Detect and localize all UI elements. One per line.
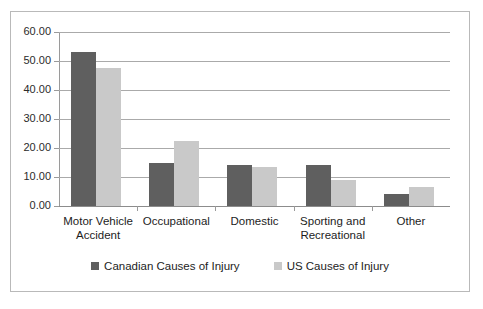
y-axis-tick <box>54 90 59 91</box>
chart-legend: Canadian Causes of InjuryUS Causes of In… <box>11 260 469 272</box>
legend-swatch-icon <box>91 262 99 270</box>
category-label-line: Domestic <box>215 214 293 228</box>
category-label-line: Occupational <box>137 214 215 228</box>
x-axis-category-label: Motor VehicleAccident <box>59 214 137 242</box>
y-axis-tick-label: 50.00 <box>23 55 51 66</box>
y-axis-tick-label: 10.00 <box>23 171 51 182</box>
y-axis-tick <box>54 148 59 149</box>
y-axis-tick <box>54 32 59 33</box>
bar[interactable] <box>384 194 409 206</box>
x-axis-tick <box>215 206 216 211</box>
y-axis-tick <box>54 177 59 178</box>
category-label-line: Accident <box>59 228 137 242</box>
x-axis-category-label: Sporting andRecreational <box>294 214 372 242</box>
bar[interactable] <box>331 180 356 206</box>
category-label-line: Other <box>372 214 450 228</box>
x-axis-category-label: Domestic <box>215 214 293 228</box>
y-axis-tick-label: 60.00 <box>23 26 51 37</box>
category-label-line: Recreational <box>294 228 372 242</box>
bar[interactable] <box>71 52 96 206</box>
chart-container: 60.0050.0040.0030.0020.0010.000.00 Motor… <box>10 11 470 292</box>
y-axis-tick <box>54 119 59 120</box>
legend-label: Canadian Causes of Injury <box>104 260 240 272</box>
bar[interactable] <box>149 163 174 207</box>
x-axis-category-label: Occupational <box>137 214 215 228</box>
bar-group <box>294 32 372 206</box>
y-axis-tick-label: 40.00 <box>23 84 51 95</box>
bar[interactable] <box>409 187 434 206</box>
bar[interactable] <box>252 167 277 206</box>
legend-swatch-icon <box>274 262 282 270</box>
x-axis-tick <box>137 206 138 211</box>
bar[interactable] <box>227 165 252 206</box>
y-axis-tick <box>54 206 59 207</box>
bar-group <box>372 32 450 206</box>
y-axis-labels: 60.0050.0040.0030.0020.0010.000.00 <box>11 12 51 212</box>
category-label-line: Sporting and <box>294 214 372 228</box>
plot-wrapper: 60.0050.0040.0030.0020.0010.000.00 Motor… <box>11 12 469 291</box>
bar-group <box>215 32 293 206</box>
legend-item[interactable]: US Causes of Injury <box>274 260 389 272</box>
bars-layer <box>59 32 450 206</box>
x-axis-category-labels: Motor VehicleAccidentOccupationalDomesti… <box>59 214 450 254</box>
y-axis-tick <box>54 61 59 62</box>
x-axis-tick <box>372 206 373 211</box>
bar[interactable] <box>96 68 121 206</box>
gridline-0-00 <box>59 206 450 207</box>
y-axis-tick-label: 30.00 <box>23 113 51 124</box>
bar[interactable] <box>306 165 331 206</box>
bar-group <box>137 32 215 206</box>
y-axis-tick-label: 0.00 <box>30 200 51 211</box>
y-axis-tick-label: 20.00 <box>23 142 51 153</box>
category-label-line: Motor Vehicle <box>59 214 137 228</box>
legend-label: US Causes of Injury <box>287 260 389 272</box>
legend-item[interactable]: Canadian Causes of Injury <box>91 260 240 272</box>
x-axis-tick <box>294 206 295 211</box>
x-axis-category-label: Other <box>372 214 450 228</box>
bar[interactable] <box>174 141 199 206</box>
bar-group <box>59 32 137 206</box>
